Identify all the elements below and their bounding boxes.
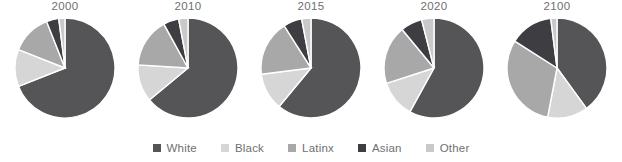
pie-graphic: [505, 16, 609, 120]
legend-item-label: Other: [440, 142, 470, 155]
pie-panel: 2100: [498, 0, 616, 120]
pie-panel: 2015: [252, 0, 370, 120]
chart-legend: WhiteBlackLatinxAsianOther: [0, 138, 622, 158]
pie-panel-title: 2000: [52, 0, 79, 13]
legend-item-label: White: [167, 142, 197, 155]
pie-panel-title: 2100: [544, 0, 571, 13]
square-swatch-icon: [288, 144, 296, 152]
square-swatch-icon: [426, 144, 434, 152]
square-swatch-icon: [153, 144, 161, 152]
pie-panel-title: 2010: [175, 0, 202, 13]
pie-panel-title: 2020: [421, 0, 448, 13]
pie-panel: 2010: [129, 0, 247, 120]
legend-item-label: Latinx: [302, 142, 334, 155]
legend-item[interactable]: Asian: [358, 142, 402, 155]
pie-panel: 2000: [6, 0, 124, 120]
square-swatch-icon: [358, 144, 366, 152]
legend-item[interactable]: White: [153, 142, 197, 155]
legend-item-label: Black: [235, 142, 264, 155]
pie-graphic: [382, 16, 486, 120]
legend-item[interactable]: Other: [426, 142, 470, 155]
legend-item[interactable]: Black: [221, 142, 264, 155]
legend-item-label: Asian: [372, 142, 402, 155]
pie-graphic: [259, 16, 363, 120]
legend-item[interactable]: Latinx: [288, 142, 334, 155]
pie-panels-row: 20002010201520202100: [0, 0, 622, 132]
pie-panel-title: 2015: [298, 0, 325, 13]
pie-panel: 2020: [375, 0, 493, 120]
square-swatch-icon: [221, 144, 229, 152]
pie-chart-figure: 20002010201520202100 WhiteBlackLatinxAsi…: [0, 0, 622, 162]
pie-graphic: [136, 16, 240, 120]
pie-graphic: [13, 16, 117, 120]
